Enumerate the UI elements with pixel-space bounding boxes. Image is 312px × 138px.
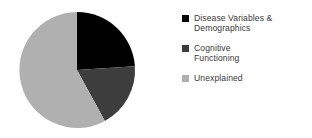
legend-label: Unexplained (194, 73, 243, 83)
chart-legend: Disease Variables & Demographics Cogniti… (182, 13, 312, 92)
legend-swatch-dark-gray (182, 45, 189, 52)
legend-swatch-light-gray (182, 75, 189, 82)
legend-item-cognitive-functioning[interactable]: Cognitive Functioning (182, 43, 312, 64)
pie-plot-area (0, 0, 156, 138)
pie-svg (0, 0, 156, 138)
pie-chart-figure: Disease Variables & Demographics Cogniti… (0, 0, 312, 138)
legend-swatch-black (182, 15, 189, 22)
legend-item-disease-variables-demographics[interactable]: Disease Variables & Demographics (182, 13, 312, 34)
pie-slice-disease-variables-demographics[interactable] (77, 12, 135, 70)
legend-item-unexplained[interactable]: Unexplained (182, 73, 312, 83)
legend-label: Cognitive Functioning (194, 43, 239, 64)
legend-label: Disease Variables & Demographics (194, 13, 272, 34)
